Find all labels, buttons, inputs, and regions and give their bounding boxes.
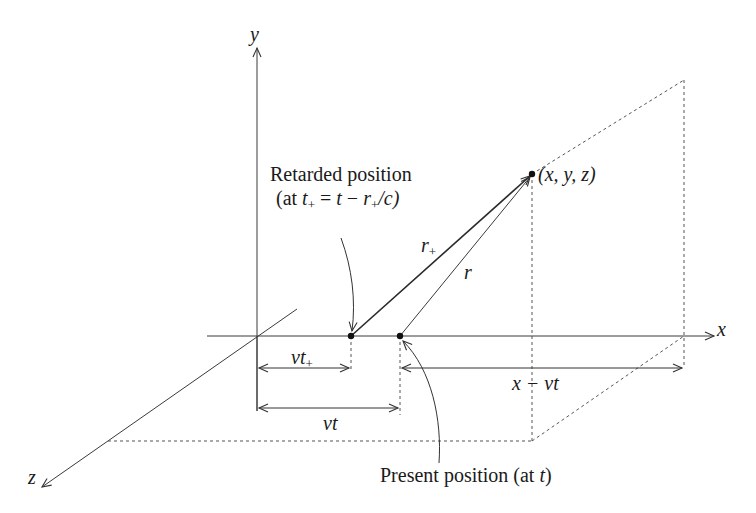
z-axis: [42, 309, 297, 487]
retarded-position-diagram: y x z (x, y, z) Retarded position (at t+…: [0, 0, 756, 513]
z-axis-label: z: [28, 467, 36, 487]
retarded-time-equation: (at t+ = t − r+/c): [276, 188, 399, 211]
field-point-label: (x, y, z): [538, 164, 596, 184]
vt-plus-label: vt+: [291, 347, 313, 370]
r-plus-label: r+: [421, 235, 436, 258]
y-axis-label: y: [250, 24, 259, 44]
retarded-position-dot: [348, 333, 354, 339]
vt-label: vt: [323, 413, 337, 433]
field-point-dot: [529, 171, 535, 177]
x-minus-vt-label: x − vt: [512, 373, 559, 393]
retarded-position-label: Retarded position: [270, 164, 412, 184]
present-callout-arrow: [403, 341, 440, 463]
x-axis-label: x: [717, 319, 726, 339]
present-position-dot: [397, 333, 403, 339]
r-label: r: [464, 262, 472, 282]
present-position-label: Present position (at t): [380, 465, 552, 485]
r-line: [400, 177, 530, 336]
retarded-callout-arrow: [341, 238, 354, 331]
projection-box: [108, 80, 684, 441]
diagram-graphics: [0, 0, 756, 513]
